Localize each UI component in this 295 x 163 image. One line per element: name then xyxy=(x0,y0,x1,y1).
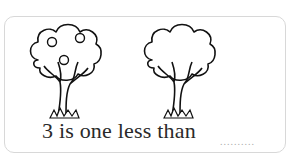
bare-tree-icon xyxy=(138,20,218,120)
apple-tree-icon xyxy=(24,20,104,120)
answer-blank[interactable]: .......... xyxy=(220,136,255,147)
question-sentence: 3 is one less than xyxy=(42,118,196,144)
